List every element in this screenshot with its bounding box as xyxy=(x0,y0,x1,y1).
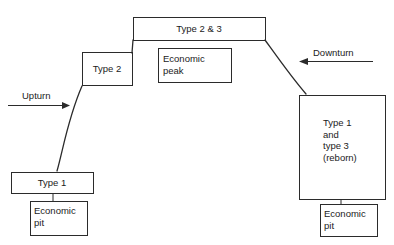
node-economic-peak-label: Economic peak xyxy=(163,53,231,76)
node-economic-pit-left-label: Economic pit xyxy=(34,205,90,228)
upturn-arrow-head-icon xyxy=(62,102,70,109)
downturn-arrow-head-icon xyxy=(299,58,308,65)
node-type1-left-label: Type 1 xyxy=(11,177,93,189)
curve-peak-left-connector xyxy=(132,40,133,53)
node-type2-label: Type 2 xyxy=(82,63,132,75)
node-type2and3-label: Type 2 & 3 xyxy=(133,23,265,35)
upturn-arrow-label: Upturn xyxy=(22,90,82,102)
economic-cycle-diagram: Type 1 Economic pit Type 2 Type 2 & 3 Ec… xyxy=(0,0,394,245)
node-economic-pit-right-label: Economic pit xyxy=(324,208,380,231)
node-type1-and-type3-reborn-label: Type 1 and type 3 (reborn) xyxy=(323,117,385,163)
downturn-arrow-label: Downturn xyxy=(313,47,383,59)
curve-downturn xyxy=(265,40,306,94)
